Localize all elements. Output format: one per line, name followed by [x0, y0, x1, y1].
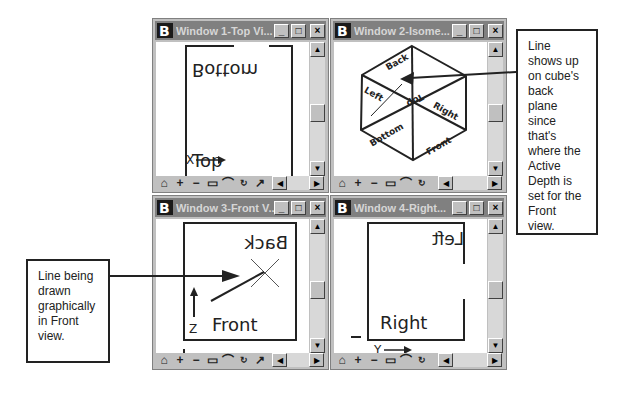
window-area-icon[interactable]: ▭	[382, 353, 398, 367]
scroll-left-button[interactable]: ◀	[272, 353, 287, 367]
drawn-line	[211, 272, 264, 301]
scroll-left-button[interactable]: ◀	[272, 176, 287, 190]
scroll-down-button[interactable]: ▼	[488, 161, 503, 176]
scroll-down-button[interactable]: ▼	[310, 338, 325, 353]
fit-view-icon[interactable]: ⌒	[398, 353, 414, 367]
zoom-out-icon[interactable]: −	[188, 353, 204, 367]
vertical-scrollbar[interactable]: ▲ ▼	[488, 42, 503, 176]
callout-front-view-line: Line being drawn graphically in Front vi…	[26, 259, 110, 363]
zoom-out-icon[interactable]: −	[188, 176, 204, 190]
horizontal-scrollbar[interactable]: ◀ ▶	[438, 176, 502, 190]
zoom-in-icon[interactable]: +	[172, 353, 188, 367]
window-title: Window 4-Right...	[354, 202, 452, 214]
window-title: Window 1-Top Vi...	[176, 25, 274, 37]
svg-text:B: B	[337, 23, 348, 38]
zoom-in-icon[interactable]: +	[350, 176, 366, 190]
close-button[interactable]: ×	[488, 24, 503, 38]
window-area-icon[interactable]: ▭	[204, 176, 220, 190]
minimize-button[interactable]: _	[274, 201, 289, 215]
microstation-logo-icon: B	[156, 199, 174, 216]
back-label: Back	[244, 232, 288, 253]
svg-text:B: B	[337, 200, 348, 215]
microstation-logo-icon: B	[334, 22, 352, 39]
left-label: Left	[432, 229, 464, 249]
zoom-out-icon[interactable]: −	[366, 176, 382, 190]
update-icon[interactable]: ⌂	[334, 176, 350, 190]
svg-text:X: X	[186, 153, 194, 167]
scroll-right-button[interactable]: ▶	[309, 353, 324, 367]
rotate-view-icon[interactable]: ↻	[236, 176, 252, 190]
update-icon[interactable]: ⌂	[334, 353, 350, 367]
scroll-left-button[interactable]: ◀	[438, 353, 453, 367]
window-3-front-view[interactable]: B Window 3-Front V... _ □ × Back Z Front…	[152, 195, 329, 370]
microstation-logo-icon: B	[156, 22, 174, 39]
scroll-thumb[interactable]	[310, 104, 325, 122]
window-title: Window 3-Front V...	[176, 202, 274, 214]
window-4-titlebar[interactable]: B Window 4-Right... _ □ ×	[333, 198, 504, 217]
scroll-right-button[interactable]: ▶	[487, 353, 502, 367]
fit-view-icon[interactable]: ⌒	[220, 176, 236, 190]
horizontal-scrollbar[interactable]: ◀ ▶	[272, 353, 324, 367]
minimize-button[interactable]: _	[452, 201, 467, 215]
view-canvas[interactable]: Back Left Top Right Bottom Front	[334, 42, 487, 176]
scroll-up-button[interactable]: ▲	[310, 219, 325, 234]
rotate-view-icon[interactable]: ↻	[414, 353, 430, 367]
vertical-scrollbar[interactable]: ▲ ▼	[488, 219, 503, 353]
vertical-scrollbar[interactable]: ▲ ▼	[310, 219, 325, 353]
window-area-icon[interactable]: ▭	[382, 176, 398, 190]
window-area-icon[interactable]: ▭	[204, 353, 220, 367]
z-axis-label: Z	[189, 322, 197, 336]
window-1-top-view[interactable]: B Window 1-Top Vi... _ □ × Bottom Top X …	[152, 18, 329, 193]
close-button[interactable]: ×	[310, 201, 325, 215]
rotate-view-icon[interactable]: ↻	[236, 353, 252, 367]
scroll-up-button[interactable]: ▲	[310, 42, 325, 57]
window-1-titlebar[interactable]: B Window 1-Top Vi... _ □ ×	[155, 21, 326, 40]
close-button[interactable]: ×	[488, 201, 503, 215]
update-icon[interactable]: ⌂	[156, 353, 172, 367]
scroll-up-button[interactable]: ▲	[488, 219, 503, 234]
pan-icon[interactable]: ↗	[252, 176, 268, 190]
scroll-up-button[interactable]: ▲	[488, 42, 503, 57]
horizontal-scrollbar[interactable]: ◀ ▶	[272, 176, 324, 190]
scroll-thumb[interactable]	[310, 281, 325, 299]
rotate-view-icon[interactable]: ↻	[414, 176, 430, 190]
scroll-left-button[interactable]: ◀	[438, 176, 453, 190]
scroll-down-button[interactable]: ▼	[488, 338, 503, 353]
view-canvas[interactable]: Back Z Front	[156, 219, 309, 353]
window-2-isometric-view[interactable]: B Window 2-Isome... _ □ × Back Left Top …	[330, 18, 507, 193]
horizontal-scrollbar[interactable]: ◀ ▶	[438, 353, 502, 367]
view-canvas[interactable]: Bottom Top X	[156, 42, 309, 176]
window-4-right-view[interactable]: B Window 4-Right... _ □ × Left Right Y ▲…	[330, 195, 507, 370]
scroll-thumb[interactable]	[488, 281, 503, 299]
window-2-titlebar[interactable]: B Window 2-Isome... _ □ ×	[333, 21, 504, 40]
close-button[interactable]: ×	[310, 24, 325, 38]
view-canvas[interactable]: Left Right Y	[334, 219, 487, 353]
callout-back-plane: Line shows up on cube's back plane since…	[516, 29, 598, 235]
minimize-button[interactable]: _	[452, 24, 467, 38]
microstation-logo-icon: B	[334, 199, 352, 216]
vertical-scrollbar[interactable]: ▲ ▼	[310, 42, 325, 176]
zoom-in-icon[interactable]: +	[350, 353, 366, 367]
maximize-button[interactable]: □	[291, 24, 306, 38]
zoom-in-icon[interactable]: +	[172, 176, 188, 190]
svg-text:B: B	[159, 200, 170, 215]
scroll-right-button[interactable]: ▶	[309, 176, 324, 190]
zoom-out-icon[interactable]: −	[366, 353, 382, 367]
pan-icon[interactable]: ↗	[252, 353, 268, 367]
fit-view-icon[interactable]: ⌒	[398, 176, 414, 190]
svg-text:B: B	[159, 23, 170, 38]
maximize-button[interactable]: □	[291, 201, 306, 215]
scroll-right-button[interactable]: ▶	[487, 176, 502, 190]
bottom-label: Bottom	[192, 60, 258, 81]
svg-text:Front: Front	[425, 134, 454, 156]
minimize-button[interactable]: _	[274, 24, 289, 38]
maximize-button[interactable]: □	[469, 201, 484, 215]
fit-view-icon[interactable]: ⌒	[220, 353, 236, 367]
scroll-thumb[interactable]	[488, 104, 503, 122]
window-3-titlebar[interactable]: B Window 3-Front V... _ □ ×	[155, 198, 326, 217]
maximize-button[interactable]: □	[469, 24, 484, 38]
isometric-cube: Back Left Top Right Bottom Front	[334, 42, 487, 176]
scroll-down-button[interactable]: ▼	[310, 161, 325, 176]
right-label: Right	[380, 312, 427, 333]
update-icon[interactable]: ⌂	[156, 176, 172, 190]
